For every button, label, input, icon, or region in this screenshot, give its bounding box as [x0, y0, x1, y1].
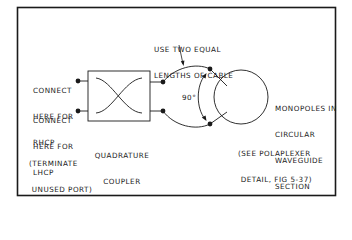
coupler-label-line-1: QUADRATURE	[90, 152, 154, 161]
cable-label-line-2: LENGTHS OF CABLE	[154, 72, 233, 81]
lhcp-label-line-1: CONNECT	[33, 117, 74, 126]
see-reference-line-2: DETAIL, FIG 5-37)	[238, 176, 312, 185]
coupler-crossover-curve-2	[96, 78, 142, 113]
lhcp-port-dot	[76, 109, 81, 114]
coupler-label: QUADRATURE COUPLER	[90, 135, 154, 195]
rhcp-port-dot	[76, 79, 81, 84]
terminate-note: (TERMINATE UNUSED PORT)	[29, 143, 92, 203]
rhcp-label-line-1: CONNECT	[33, 87, 74, 96]
angle-label: 90°	[182, 94, 196, 103]
see-reference-line-1: (SEE POLAPLEXER	[238, 150, 312, 159]
terminate-note-line-1: (TERMINATE	[29, 160, 92, 169]
see-reference-note: (SEE POLAPLEXER DETAIL, FIG 5-37)	[238, 133, 312, 193]
terminate-note-line-2: UNUSED PORT)	[29, 186, 92, 195]
arc-arrowhead-bottom-icon	[202, 116, 207, 121]
cable-label-line-1: USE TWO EQUAL	[154, 46, 233, 55]
cable-label: USE TWO EQUAL LENGTHS OF CABLE	[154, 29, 233, 89]
coupler-label-line-2: COUPLER	[90, 178, 154, 187]
cable-bottom	[163, 111, 210, 127]
monopoles-label-line-1: MONOPOLES IN	[275, 105, 337, 114]
